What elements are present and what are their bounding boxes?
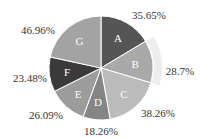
slice-label: G xyxy=(75,35,83,47)
percent-label: 18.26% xyxy=(84,125,118,137)
slice-label: B xyxy=(131,58,138,70)
pie-chart: ABCDEFG 35.65%28.7%38.26%18.26%26.09%23.… xyxy=(0,0,206,138)
percent-label: 35.65% xyxy=(132,9,166,21)
slice-label: D xyxy=(94,96,102,108)
percent-label: 46.96% xyxy=(21,24,55,36)
slice-label: E xyxy=(75,88,82,100)
slice-label: F xyxy=(64,66,70,78)
percent-label: 28.7% xyxy=(166,65,194,77)
percent-label: 26.09% xyxy=(29,109,63,121)
slice-label: C xyxy=(120,88,127,100)
slice-label: A xyxy=(114,32,122,44)
percent-label: 38.26% xyxy=(141,107,175,119)
percent-label: 23.48% xyxy=(13,72,47,84)
